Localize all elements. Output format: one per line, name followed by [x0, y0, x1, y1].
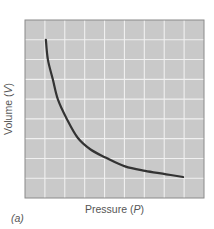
x-axis-label-close: ): [140, 203, 144, 215]
chart: [0, 0, 214, 229]
plot-area: [25, 20, 204, 198]
panel-label: (a): [11, 212, 24, 224]
x-axis-label: Pressure (P): [25, 203, 204, 215]
y-axis-label-close: ): [2, 83, 14, 87]
x-axis-label-text: Pressure (: [85, 203, 133, 215]
y-axis-variable: V: [2, 87, 14, 94]
y-axis-label-text: Volume (: [2, 94, 14, 135]
y-axis-label: Volume (V): [2, 69, 16, 149]
